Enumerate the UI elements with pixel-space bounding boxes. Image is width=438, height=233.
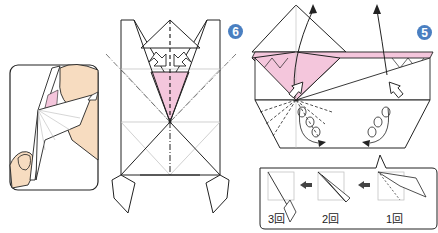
step-6-number: 6: [232, 26, 239, 38]
count-text: 2回: [322, 210, 339, 226]
count-label-3: 3回: [268, 210, 285, 226]
step-5-figure: [252, 4, 433, 148]
step-6-figure: [106, 20, 236, 213]
count-label-2: 2回: [322, 210, 339, 226]
step-number-badge: 5: [417, 25, 432, 40]
diagram-drawing: [0, 0, 438, 233]
step-5-number: 5: [421, 27, 428, 39]
sub-sequence-inset: [260, 155, 437, 229]
count-label-1: 1回: [386, 210, 403, 226]
step-number-badge: 6: [228, 24, 243, 39]
origami-diagram: 6 5 3回 2回 1回: [0, 0, 438, 233]
count-text: 3回: [268, 210, 285, 226]
hand-inset: [10, 64, 98, 190]
count-text: 1回: [386, 210, 403, 226]
